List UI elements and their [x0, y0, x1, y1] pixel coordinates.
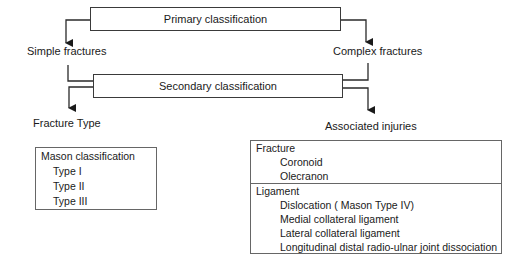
mason-type-item: Type II [53, 180, 85, 193]
ligament-section: Ligament Dislocation ( Mason Type IV) Me… [251, 184, 501, 253]
arrow-to-fracture-type [69, 87, 93, 108]
ligament-item: Dislocation ( Mason Type IV) [280, 199, 414, 212]
ligament-item: Lateral collateral ligament [280, 227, 400, 240]
mason-classification-box: Mason classification Type I Type II Type… [35, 147, 157, 210]
primary-classification-box: Primary classification [90, 7, 341, 31]
ligament-item: Medial collateral ligament [280, 213, 398, 226]
arrow-to-associated-injuries [343, 88, 368, 110]
fracture-type-label: Fracture Type [33, 117, 101, 130]
associated-injuries-box: Fracture Coronoid Olecranon Ligament Dis… [250, 140, 502, 254]
associated-injuries-label: Associated injuries [325, 120, 417, 133]
line-complex-to-secondary [343, 63, 368, 80]
primary-classification-label: Primary classification [91, 13, 340, 26]
fracture-item: Coronoid [280, 156, 323, 169]
ligament-item: Longitudinal distal radio-ulnar joint di… [280, 241, 497, 254]
fracture-section: Fracture Coronoid Olecranon [251, 141, 501, 184]
ligament-section-title: Ligament [256, 185, 299, 198]
fracture-item: Olecranon [280, 170, 328, 183]
simple-fractures-label: Simple fractures [27, 45, 106, 58]
fracture-section-title: Fracture [256, 142, 295, 155]
arrow-to-simple-fractures [66, 20, 90, 43]
mason-type-item: Type III [53, 195, 87, 208]
line-simple-to-secondary [68, 65, 93, 81]
mason-classification-title: Mason classification [41, 150, 135, 163]
secondary-classification-box: Secondary classification [93, 74, 343, 98]
complex-fractures-label: Complex fractures [333, 45, 422, 58]
arrow-to-complex-fractures [341, 20, 366, 42]
mason-type-item: Type I [53, 165, 82, 178]
secondary-classification-label: Secondary classification [94, 80, 342, 93]
